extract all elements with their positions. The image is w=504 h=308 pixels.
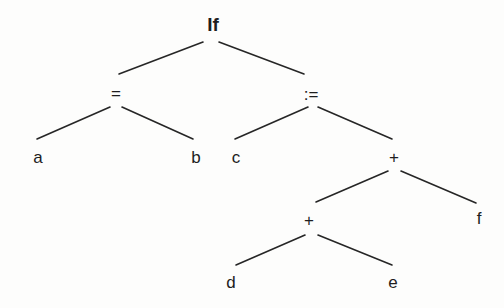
tree-node-b: b (191, 148, 200, 167)
tree-node-eq: = (111, 84, 121, 103)
edge-eq-to-b (122, 107, 193, 139)
edge-if-to-eq (119, 42, 203, 74)
edge-assign-to-plus1 (318, 107, 392, 139)
tree-node-plus1: + (389, 148, 399, 167)
tree-node-a: a (33, 148, 43, 167)
edge-if-to-assign (219, 42, 304, 74)
tree-node-d: d (226, 273, 235, 292)
edge-assign-to-c (235, 107, 308, 139)
edge-plus2-to-d (236, 235, 305, 265)
edge-plus1-to-plus2 (316, 171, 388, 202)
tree-node-if: If (207, 14, 219, 35)
tree-node-e: e (388, 273, 397, 292)
tree-node-plus2: + (304, 211, 314, 230)
tree-edges (37, 42, 476, 265)
syntax-tree-diagram: If=:=abc++fde (0, 0, 504, 308)
tree-node-c: c (232, 148, 241, 167)
edge-plus2-to-e (318, 235, 392, 265)
tree-node-f: f (477, 209, 482, 228)
tree-node-assign: := (304, 85, 319, 104)
edge-plus1-to-f (401, 171, 476, 203)
edge-eq-to-a (37, 107, 110, 139)
tree-nodes: If=:=abc++fde (33, 14, 481, 292)
